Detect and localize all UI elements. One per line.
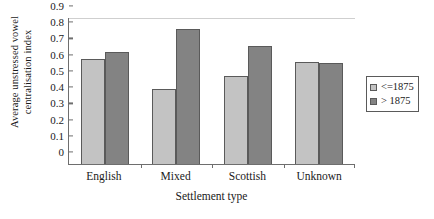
x-axis-tick-mark <box>141 164 142 168</box>
y-axis-tick-label: 0.9 <box>50 0 69 12</box>
bar-group <box>141 18 213 164</box>
y-axis-tick-label: 0.6 <box>50 49 69 61</box>
bar[interactable] <box>248 46 272 164</box>
x-axis-tick-label: Unknown <box>283 170 355 182</box>
plot-area: 0.90.80.70.60.50.40.30.20.10 <box>68 18 355 165</box>
legend-swatch <box>370 84 377 91</box>
y-axis-tick-label: 0.4 <box>50 81 69 93</box>
y-axis-tick-label: 0 <box>59 146 70 158</box>
y-axis-tick-label: 0.5 <box>50 65 69 77</box>
x-axis-tick-label: Scottish <box>212 170 284 182</box>
legend-item[interactable]: <=1875 <box>370 80 414 94</box>
y-axis-title-line-2: centralisation index <box>22 0 35 147</box>
bar-group <box>69 18 141 164</box>
y-axis-title: Average unstressed vowel centralisation … <box>9 0 49 147</box>
bar-group <box>284 18 356 164</box>
y-axis-tick-mark <box>69 5 73 6</box>
x-axis-tick-label: Mixed <box>140 170 212 182</box>
legend-swatch <box>370 98 377 105</box>
bar[interactable] <box>176 29 200 164</box>
bar-group <box>212 18 284 164</box>
x-axis-tick-mark <box>212 164 213 168</box>
y-axis-title-line-1: Average unstressed vowel <box>9 0 22 147</box>
bar-groups <box>69 18 355 164</box>
y-axis-tick-label: 0.1 <box>50 130 69 142</box>
chart-figure: Average unstressed vowel centralisation … <box>0 0 434 219</box>
legend: <=1875> 1875 <box>366 76 419 112</box>
y-axis-tick-label: 0.8 <box>50 16 69 28</box>
x-axis-tick-mark <box>354 164 355 168</box>
y-axis-tick-label: 0.3 <box>50 97 69 109</box>
y-axis-tick-label: 0.2 <box>50 114 69 126</box>
y-axis-tick-label: 0.7 <box>50 32 69 44</box>
bar[interactable] <box>295 62 319 164</box>
x-axis-tick-mark <box>284 164 285 168</box>
bar[interactable] <box>81 59 105 164</box>
x-axis-title: Settlement type <box>68 190 355 202</box>
x-axis-tick-label: English <box>68 170 140 182</box>
x-axis-tick-labels: EnglishMixedScottishUnknown <box>68 170 355 182</box>
bar[interactable] <box>224 76 248 164</box>
legend-item[interactable]: > 1875 <box>370 94 414 108</box>
bar[interactable] <box>319 63 343 164</box>
bar[interactable] <box>152 89 176 164</box>
legend-label: <=1875 <box>381 80 414 94</box>
bar[interactable] <box>105 52 129 164</box>
legend-label: > 1875 <box>381 94 411 108</box>
